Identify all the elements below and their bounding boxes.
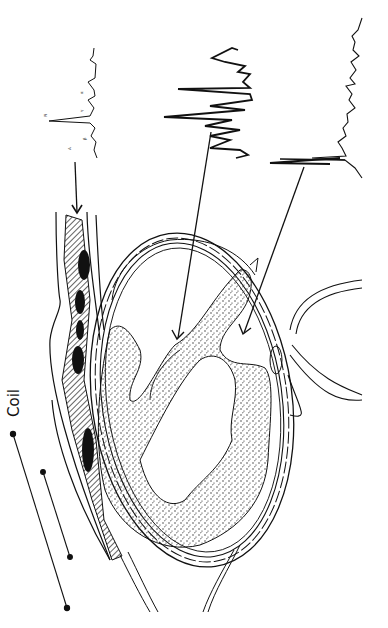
coil-label: Coil (5, 383, 23, 423)
peak-label: A (67, 147, 72, 150)
peak-label: γ (79, 109, 84, 112)
spectrum-2 (164, 48, 252, 158)
arrow-1 (75, 162, 77, 212)
coil-markers (10, 431, 72, 610)
spectrum-1 (49, 48, 97, 158)
diagram-canvas: Pi α γ β A (0, 0, 388, 628)
peak-label: Pi (43, 114, 48, 117)
great-vessel (270, 280, 362, 416)
arrows (72, 132, 304, 339)
peak-label: β (82, 137, 87, 140)
peak-label: α (79, 91, 84, 94)
spectrum-3 (270, 18, 362, 178)
myocardium (98, 270, 271, 547)
